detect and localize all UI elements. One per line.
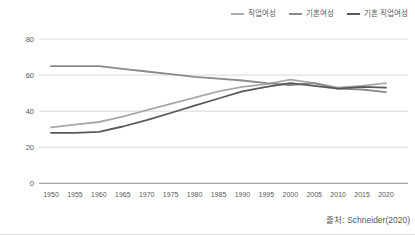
x-tick-label: 1950: [43, 191, 59, 198]
legend-line-icon: [231, 13, 244, 15]
x-tick-label: 2005: [306, 191, 322, 198]
source-citation: 출처: Schneider(2020): [326, 213, 410, 225]
x-tick-label: 2000: [282, 191, 298, 198]
x-tick-label: 1965: [115, 191, 131, 198]
x-tick-label: 1990: [235, 191, 251, 198]
plot-area: 0204060801950195519601965197019751980198…: [0, 0, 415, 235]
legend-label: 기혼 직업여성: [364, 10, 408, 18]
y-tick-label: 0: [30, 179, 34, 188]
x-tick-label: 1970: [139, 191, 155, 198]
x-tick-label: 1975: [163, 191, 179, 198]
legend-line-icon: [347, 13, 360, 15]
line-chart: 직업여성기혼여성기혼 직업여성 020406080195019551960196…: [0, 0, 415, 235]
y-tick-label: 60: [26, 71, 34, 80]
x-tick-label: 1960: [91, 191, 107, 198]
x-tick-label: 1980: [187, 191, 203, 198]
y-tick-label: 40: [26, 107, 34, 116]
y-tick-label: 20: [26, 143, 34, 152]
legend-item-2: 기혼 직업여성: [347, 10, 408, 18]
x-tick-label: 1985: [211, 191, 227, 198]
x-tick-label: 2010: [330, 191, 346, 198]
x-tick-label: 1955: [67, 191, 83, 198]
chart-legend: 직업여성기혼여성기혼 직업여성: [231, 10, 408, 18]
x-tick-label: 2020: [378, 191, 394, 198]
legend-line-icon: [289, 13, 302, 15]
legend-label: 직업여성: [248, 10, 276, 18]
legend-item-0: 직업여성: [231, 10, 276, 18]
y-tick-label: 80: [26, 35, 34, 44]
x-tick-label: 1995: [259, 191, 275, 198]
series-line-0: [51, 80, 386, 128]
legend-label: 기혼여성: [306, 10, 334, 18]
legend-item-1: 기혼여성: [289, 10, 334, 18]
x-tick-label: 2015: [354, 191, 370, 198]
